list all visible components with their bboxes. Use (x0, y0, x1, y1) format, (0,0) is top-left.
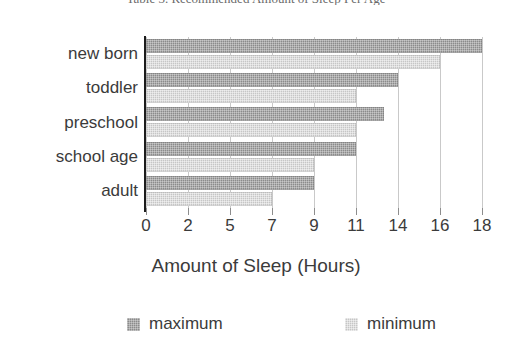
x-axis-tick-label: 5 (210, 216, 250, 236)
legend-swatch-minimum (345, 318, 358, 331)
x-axis-tick (230, 208, 231, 215)
x-axis-tick-label: 7 (252, 216, 292, 236)
x-axis-tick-label: 11 (336, 216, 376, 236)
bar-group (146, 71, 482, 105)
x-axis-tick-label: 0 (126, 216, 166, 236)
bar-maximum (146, 142, 356, 156)
chart-legend: maximumminimum (0, 314, 512, 340)
bar-group (146, 140, 482, 174)
x-axis-tick-label: 18 (462, 216, 502, 236)
bar-maximum (146, 39, 482, 53)
bar-minimum (146, 123, 356, 137)
bar-minimum (146, 158, 314, 172)
x-axis-tick (440, 208, 441, 215)
x-axis-tick (482, 208, 483, 215)
bar-minimum (146, 192, 272, 206)
bar-series-container (146, 37, 482, 208)
x-axis-tick-labels: 0257911141618 (146, 216, 482, 240)
bar-maximum (146, 176, 314, 190)
x-axis-tick-label: 16 (420, 216, 460, 236)
bar-group (146, 174, 482, 208)
chart-figure: Table 3. Recommended Amount of Sleep Per… (0, 0, 512, 347)
bar-minimum (146, 89, 356, 103)
bar-group (146, 105, 482, 139)
chart-title: Table 3. Recommended Amount of Sleep Per… (0, 0, 512, 5)
plot-area (146, 37, 482, 208)
x-axis-tick (272, 208, 273, 215)
bar-maximum (146, 107, 384, 121)
bar-group (146, 37, 482, 71)
legend-item-minimum[interactable]: minimum (345, 314, 436, 334)
y-axis-tick-label: toddler (0, 79, 138, 96)
x-axis-tick-label: 2 (168, 216, 208, 236)
x-axis-tick (146, 208, 147, 215)
x-axis-tick (188, 208, 189, 215)
legend-label: maximum (149, 314, 223, 334)
x-axis-tick (398, 208, 399, 215)
legend-swatch-maximum (127, 318, 140, 331)
y-axis-tick-labels: new borntoddlerpreschoolschool ageadult (0, 37, 138, 208)
bar-minimum (146, 55, 440, 69)
x-axis-tick (356, 208, 357, 215)
y-axis-tick-label: adult (0, 182, 138, 199)
gridline (482, 37, 483, 214)
legend-label: minimum (367, 314, 436, 334)
x-axis-title: Amount of Sleep (Hours) (0, 255, 512, 277)
y-axis-tick-label: new born (0, 45, 138, 62)
y-axis-tick-label: preschool (0, 114, 138, 131)
x-axis-tick-label: 14 (378, 216, 418, 236)
legend-item-maximum[interactable]: maximum (127, 314, 223, 334)
x-axis-tick-label: 9 (294, 216, 334, 236)
x-axis-tick (314, 208, 315, 215)
y-axis-tick-label: school age (0, 148, 138, 165)
bar-maximum (146, 73, 398, 87)
